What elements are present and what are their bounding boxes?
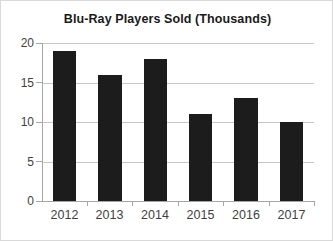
y-tick-label-0: 0 bbox=[6, 195, 34, 207]
x-tick-label-2012: 2012 bbox=[42, 208, 87, 223]
gridline-20 bbox=[42, 43, 314, 44]
plot-area bbox=[42, 43, 314, 201]
x-tick-mark-6 bbox=[314, 201, 315, 206]
bar-2014 bbox=[144, 59, 167, 201]
x-tick-label-2015: 2015 bbox=[178, 208, 223, 223]
bar-2013 bbox=[98, 75, 121, 201]
y-axis-line bbox=[42, 43, 43, 202]
x-tick-label-2017: 2017 bbox=[269, 208, 314, 223]
x-tick-mark-1 bbox=[87, 201, 88, 206]
x-tick-mark-2 bbox=[132, 201, 133, 206]
gridline-10 bbox=[42, 122, 314, 123]
x-tick-mark-3 bbox=[178, 201, 179, 206]
y-tick-label-20: 20 bbox=[6, 37, 34, 49]
y-axis-labels: 20 15 10 5 0 bbox=[1, 1, 34, 241]
x-tick-label-2016: 2016 bbox=[223, 208, 269, 223]
y-tick-label-10: 10 bbox=[6, 116, 34, 128]
bar-2016 bbox=[234, 98, 257, 201]
y-tick-label-5: 5 bbox=[6, 156, 34, 168]
bar-2015 bbox=[189, 114, 212, 201]
bar-2012 bbox=[53, 51, 76, 201]
chart-title: Blu-Ray Players Sold (Thousands) bbox=[1, 12, 333, 26]
bar-2017 bbox=[280, 122, 303, 201]
y-tick-label-15: 15 bbox=[6, 77, 34, 89]
x-tick-label-2014: 2014 bbox=[132, 208, 178, 223]
chart-container: Blu-Ray Players Sold (Thousands) 20 15 1… bbox=[0, 0, 333, 241]
gridline-5 bbox=[42, 162, 314, 163]
x-tick-mark-5 bbox=[269, 201, 270, 206]
x-tick-label-2013: 2013 bbox=[87, 208, 132, 223]
gridline-15 bbox=[42, 83, 314, 84]
x-tick-mark-4 bbox=[223, 201, 224, 206]
